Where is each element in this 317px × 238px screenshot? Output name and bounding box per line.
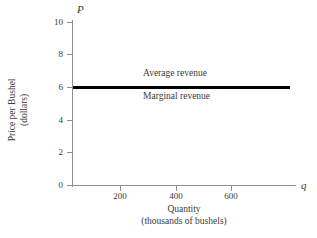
y-axis-line: [72, 20, 73, 187]
y-tick-label-4: 4: [37, 116, 63, 125]
y-tick-8: [67, 54, 73, 55]
x-axis-line: [73, 185, 296, 186]
y-axis-title-line1: Price per Bushel: [7, 35, 19, 185]
y-tick-label-6: 6: [37, 83, 63, 92]
y-axis-title-line2: (dollars): [19, 35, 31, 185]
y-axis-symbol: P: [77, 4, 84, 15]
x-tick-label-600: 600: [211, 192, 251, 201]
y-tick-label-0: 0: [37, 181, 63, 190]
x-axis-symbol: q: [301, 180, 307, 191]
y-tick-label-8: 8: [37, 50, 63, 59]
y-tick-label-10: 10: [37, 18, 63, 27]
y-axis-title: Price per Bushel (dollars): [7, 35, 31, 185]
y-tick-10: [67, 22, 73, 23]
x-axis-title: Quantity (thousands of bushels): [73, 203, 295, 228]
y-tick-4: [67, 120, 73, 121]
x-tick-label-200: 200: [100, 192, 140, 201]
y-tick-2: [67, 152, 73, 153]
revenue-line-series: [73, 86, 290, 89]
chart-figure: P q 10 8 6 4 2 0 200 400 600 Average rev…: [0, 0, 317, 238]
y-tick-label-2: 2: [37, 148, 63, 157]
marginal-revenue-label: Marginal revenue: [143, 92, 210, 102]
average-revenue-label: Average revenue: [143, 69, 207, 79]
x-tick-label-400: 400: [156, 192, 196, 201]
y-tick-0: [67, 185, 73, 186]
x-axis-title-line1: Quantity: [73, 203, 295, 215]
x-axis-title-line2: (thousands of bushels): [73, 215, 295, 227]
